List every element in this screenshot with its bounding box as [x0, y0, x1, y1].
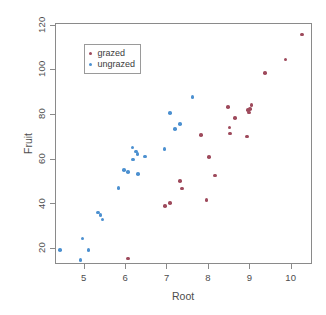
- y-axis-title: Fruit: [22, 133, 34, 154]
- data-point-grazed: [213, 174, 217, 178]
- legend-entry-ungrazed: ungrazed: [89, 59, 135, 70]
- data-point-ungrazed: [117, 186, 121, 190]
- x-tick-label: 10: [285, 272, 296, 283]
- y-tick-label: 40: [36, 198, 47, 209]
- y-tick-label: 100: [36, 61, 47, 77]
- data-point-ungrazed: [87, 248, 91, 252]
- data-point-grazed: [250, 103, 254, 107]
- y-tick-mark: [50, 69, 55, 70]
- data-point-ungrazed: [58, 248, 62, 252]
- data-point-ungrazed: [163, 147, 167, 151]
- data-point-grazed: [178, 179, 182, 183]
- data-point-grazed: [233, 116, 237, 120]
- data-point-grazed: [226, 105, 230, 109]
- y-tick-label: 120: [36, 16, 47, 32]
- x-tick-label: 9: [247, 272, 252, 283]
- x-tick-mark: [291, 264, 292, 269]
- data-point-ungrazed: [99, 213, 103, 217]
- y-tick-mark: [50, 25, 55, 26]
- legend-label: grazed: [97, 48, 125, 59]
- x-axis-title: Root: [172, 290, 194, 302]
- data-point-ungrazed: [122, 168, 126, 172]
- x-tick-mark: [208, 264, 209, 269]
- y-tick-label: 80: [36, 109, 47, 120]
- data-point-grazed: [300, 33, 304, 37]
- x-tick-mark: [125, 264, 126, 269]
- x-tick-mark: [84, 264, 85, 269]
- data-point-grazed: [245, 135, 249, 139]
- y-tick-mark: [50, 159, 55, 160]
- data-point-grazed: [163, 204, 167, 208]
- y-tick-mark: [50, 248, 55, 249]
- legend-marker-icon: [89, 63, 92, 66]
- data-point-ungrazed: [136, 152, 140, 156]
- legend: grazedungrazed: [84, 44, 141, 74]
- data-point-ungrazed: [126, 170, 130, 174]
- x-tick-label: 8: [205, 272, 210, 283]
- x-tick-label: 6: [122, 272, 127, 283]
- data-point-grazed: [263, 71, 267, 75]
- data-point-grazed: [199, 133, 203, 137]
- data-point-grazed: [168, 201, 172, 205]
- data-point-ungrazed: [168, 111, 172, 115]
- data-point-grazed: [207, 155, 211, 159]
- data-point-ungrazed: [178, 122, 182, 126]
- legend-entry-grazed: grazed: [89, 48, 135, 59]
- x-tick-label: 7: [164, 272, 169, 283]
- legend-marker-icon: [89, 52, 92, 55]
- legend-label: ungrazed: [97, 59, 135, 70]
- y-tick-label: 20: [36, 242, 47, 253]
- y-tick-label: 60: [36, 153, 47, 164]
- scatter-plot-figure: 20406080100120 5678910 Fruit Root grazed…: [0, 0, 326, 315]
- data-point-ungrazed: [173, 127, 177, 131]
- x-tick-mark: [249, 264, 250, 269]
- data-point-grazed: [180, 187, 184, 191]
- data-point-grazed: [247, 111, 251, 115]
- data-point-ungrazed: [191, 95, 195, 99]
- x-tick-mark: [166, 264, 167, 269]
- y-tick-mark: [50, 114, 55, 115]
- data-point-ungrazed: [136, 172, 140, 176]
- x-tick-label: 5: [81, 272, 86, 283]
- data-point-ungrazed: [79, 258, 83, 262]
- y-tick-mark: [50, 203, 55, 204]
